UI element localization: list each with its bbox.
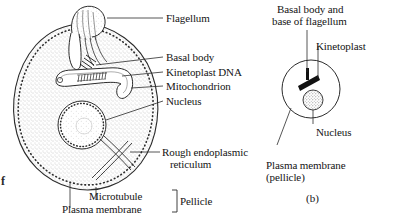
label-mitochondrion: Mitochondrion (166, 80, 231, 92)
label-panel-b-plasma-membrane-line1: Plasma membrane (266, 159, 345, 171)
panel-b-nucleus (303, 90, 323, 110)
pellicle-bracket (172, 190, 177, 212)
label-basal-body: Basal body (166, 51, 214, 63)
label-panel-b-plasma-membrane-line2: (pellicle) (266, 171, 305, 183)
label-rough-er-line2: reticulum (170, 158, 211, 170)
page-edge-glyph: f (1, 174, 5, 189)
label-basal-body-and-flagellum-line1: Basal body and (277, 3, 343, 15)
label-kinetoplast: Kinetoplast (316, 40, 366, 52)
label-microtubule: Microtubule (89, 190, 142, 202)
label-nucleus: Nucleus (166, 95, 201, 107)
label-plasma-membrane: Plasma membrane (62, 203, 141, 215)
label-basal-body-and-flagellum-line2: base of flagellum (272, 15, 347, 27)
label-rough-er-line1: Rough endoplasmic (162, 146, 248, 158)
nucleus (58, 101, 106, 149)
label-panel-b-nucleus: Nucleus (316, 126, 351, 138)
trypanosome-figure: Flagellum Basal body Kinetoplast DNA Mit… (0, 0, 394, 221)
label-flagellum: Flagellum (166, 12, 210, 24)
label-kinetoplast-dna: Kinetoplast DNA (166, 66, 242, 78)
label-pellicle: Pellicle (180, 195, 212, 207)
panel-b-caption: (b) (306, 192, 319, 204)
basal-body-bar (306, 68, 309, 80)
figure-artwork (0, 0, 394, 221)
